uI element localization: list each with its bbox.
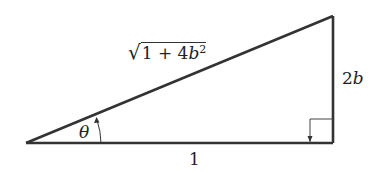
angle-arc xyxy=(97,120,101,143)
opposite-var: b xyxy=(353,68,364,88)
radicand-var: b xyxy=(188,43,199,63)
right-angle-marker xyxy=(310,119,333,143)
radical-sign: √ xyxy=(128,40,141,64)
radicand-text: 1 + 4 xyxy=(142,43,189,63)
triangle-figure xyxy=(0,0,378,173)
angle-arc-arrowhead xyxy=(94,117,100,123)
opposite-coef: 2 xyxy=(342,68,353,88)
right-angle-arrowhead xyxy=(308,136,313,142)
radicand-exponent: 2 xyxy=(199,43,206,56)
opposite-label: 2b xyxy=(342,70,364,87)
hypotenuse-side xyxy=(26,16,333,143)
radicand: 1 + 4b2 xyxy=(141,42,207,62)
angle-label: θ xyxy=(79,124,89,141)
adjacent-label: 1 xyxy=(189,151,200,168)
hypotenuse-label: √1 + 4b2 xyxy=(128,42,206,62)
